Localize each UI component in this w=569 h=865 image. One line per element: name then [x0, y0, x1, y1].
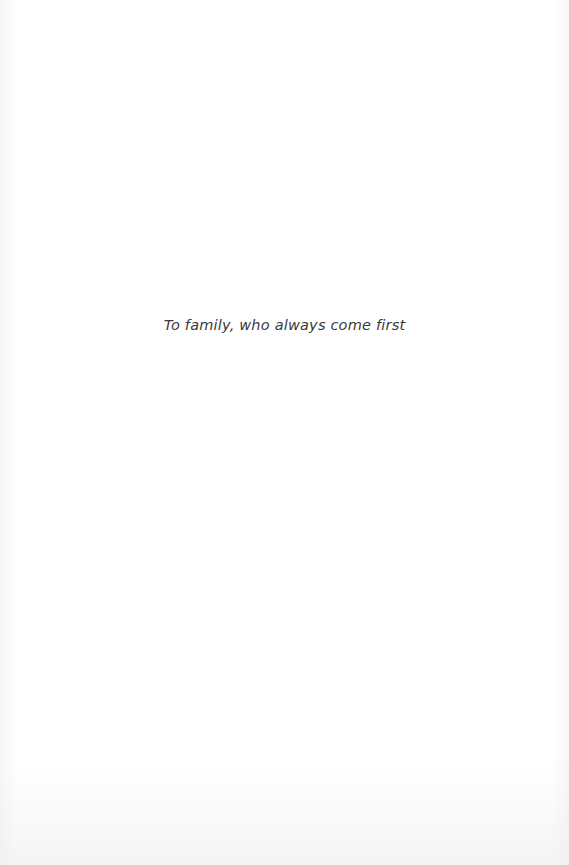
book-page: To family, who always come first: [0, 0, 569, 865]
dedication-text: To family, who always come first: [0, 314, 569, 336]
